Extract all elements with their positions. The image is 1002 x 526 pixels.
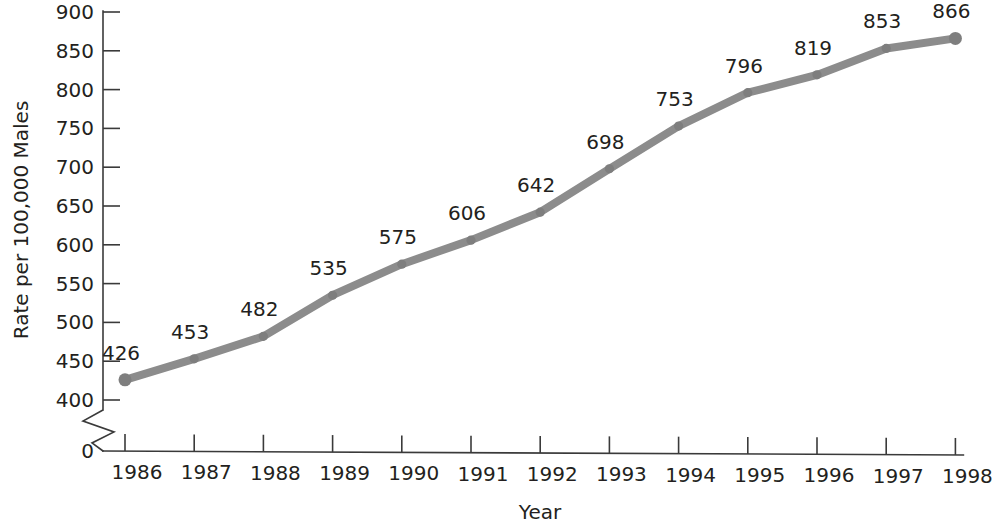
data-point bbox=[743, 88, 752, 97]
svg-text:550: 550 bbox=[56, 272, 94, 296]
x-axis-title: Year bbox=[518, 500, 562, 524]
svg-text:575: 575 bbox=[379, 225, 417, 249]
svg-text:426: 426 bbox=[102, 341, 140, 365]
svg-text:1992: 1992 bbox=[527, 462, 578, 486]
svg-text:700: 700 bbox=[56, 155, 94, 179]
svg-text:482: 482 bbox=[240, 297, 278, 321]
data-point bbox=[882, 44, 891, 53]
y-axis-title: Rate per 100,000 Males bbox=[9, 101, 33, 340]
svg-text:450: 450 bbox=[56, 349, 94, 373]
y-axis: 4004505005506006507007508008509000 bbox=[56, 0, 120, 463]
svg-text:1989: 1989 bbox=[319, 461, 370, 485]
data-point bbox=[605, 164, 614, 173]
svg-text:1996: 1996 bbox=[804, 463, 855, 487]
data-point bbox=[259, 332, 268, 341]
data-point bbox=[190, 354, 199, 363]
data-point-markers bbox=[119, 32, 962, 386]
svg-text:698: 698 bbox=[586, 130, 624, 154]
svg-text:1998: 1998 bbox=[942, 464, 993, 488]
svg-text:750: 750 bbox=[56, 116, 94, 140]
data-point bbox=[949, 32, 962, 45]
svg-text:400: 400 bbox=[56, 388, 94, 412]
data-point bbox=[328, 291, 337, 300]
svg-text:1997: 1997 bbox=[873, 464, 924, 488]
svg-text:850: 850 bbox=[56, 39, 94, 63]
data-point bbox=[466, 236, 475, 245]
svg-text:1987: 1987 bbox=[181, 460, 232, 484]
svg-text:1993: 1993 bbox=[596, 462, 647, 486]
svg-text:1995: 1995 bbox=[734, 463, 785, 487]
line-chart: Rate per 100,000 Males Year 400450500550… bbox=[0, 0, 1002, 526]
data-point bbox=[536, 208, 545, 217]
data-point bbox=[397, 260, 406, 269]
svg-text:535: 535 bbox=[310, 256, 348, 280]
svg-text:642: 642 bbox=[517, 173, 555, 197]
svg-text:800: 800 bbox=[56, 78, 94, 102]
svg-text:900: 900 bbox=[56, 0, 94, 24]
svg-text:853: 853 bbox=[863, 9, 901, 33]
svg-text:1988: 1988 bbox=[250, 461, 301, 485]
svg-text:650: 650 bbox=[56, 194, 94, 218]
svg-text:1986: 1986 bbox=[112, 460, 163, 484]
x-axis: 1986198719881989199019911992199319941995… bbox=[103, 434, 993, 488]
svg-text:453: 453 bbox=[171, 320, 209, 344]
svg-text:500: 500 bbox=[56, 310, 94, 334]
svg-text:819: 819 bbox=[794, 36, 832, 60]
svg-text:1990: 1990 bbox=[388, 461, 439, 485]
data-point-labels: 426453482535575606642698753796819853866 bbox=[102, 0, 971, 365]
svg-text:1994: 1994 bbox=[665, 463, 716, 487]
svg-text:1991: 1991 bbox=[458, 462, 509, 486]
chart-container: Rate per 100,000 Males Year 400450500550… bbox=[0, 0, 1002, 526]
data-point bbox=[812, 70, 821, 79]
svg-text:600: 600 bbox=[56, 233, 94, 257]
data-point bbox=[674, 121, 683, 130]
svg-text:753: 753 bbox=[656, 87, 694, 111]
svg-text:866: 866 bbox=[932, 0, 970, 23]
svg-text:606: 606 bbox=[448, 201, 486, 225]
svg-text:796: 796 bbox=[725, 54, 763, 78]
data-point bbox=[119, 373, 132, 386]
